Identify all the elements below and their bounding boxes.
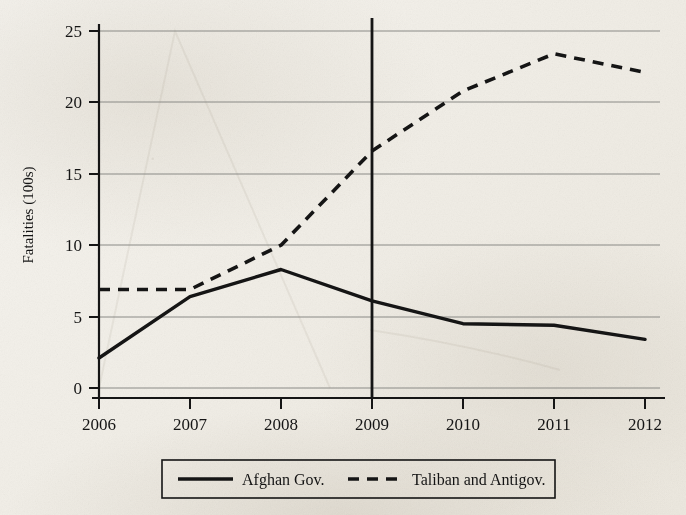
y-tick-label: 0 — [74, 379, 83, 398]
y-tick-label: 25 — [65, 22, 82, 41]
bleedthrough-artifacts: . — [99, 31, 560, 388]
svg-text:.: . — [150, 140, 156, 165]
x-tick-label: 2007 — [173, 415, 208, 434]
y-axis-tick-labels: 25 20 15 10 5 0 — [65, 22, 82, 398]
chart-legend: Afghan Gov. Taliban and Antigov. — [162, 460, 555, 498]
x-tick-label: 2008 — [264, 415, 298, 434]
x-tick-label: 2012 — [628, 415, 662, 434]
x-axis-ticks — [99, 398, 645, 409]
x-tick-label: 2010 — [446, 415, 480, 434]
y-tick-label: 10 — [65, 236, 82, 255]
x-tick-label: 2006 — [82, 415, 116, 434]
y-axis-title: Fatalities (100s) — [20, 166, 37, 263]
legend-label-taliban-antigov: Taliban and Antigov. — [412, 471, 545, 489]
y-tick-label: 15 — [65, 165, 82, 184]
legend-label-afghan-gov: Afghan Gov. — [242, 471, 325, 489]
x-tick-label: 2009 — [355, 415, 389, 434]
y-axis-ticks — [89, 31, 99, 388]
scanned-page-background: . 25 20 15 10 5 — [0, 0, 686, 515]
y-tick-label: 20 — [65, 93, 82, 112]
fatalities-line-chart: . 25 20 15 10 5 — [0, 0, 686, 515]
x-tick-label: 2011 — [537, 415, 570, 434]
horizontal-gridlines — [99, 31, 660, 388]
x-axis-tick-labels: 2006 2007 2008 2009 2010 2011 2012 — [82, 415, 662, 434]
y-tick-label: 5 — [74, 308, 83, 327]
